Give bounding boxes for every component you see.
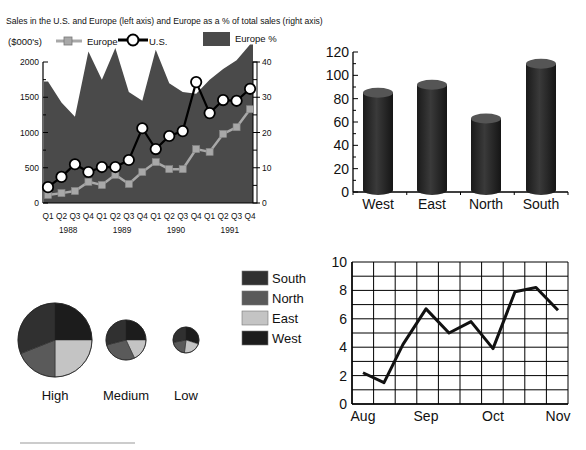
region-pie-charts: HighMediumLowSouthNorthEastWest xyxy=(18,271,306,403)
line-tick-label: 2 xyxy=(339,368,347,384)
quarter-label: Q2 xyxy=(164,211,175,221)
pie-slice-west xyxy=(55,303,92,340)
us-point xyxy=(110,162,120,172)
bar-category-label: North xyxy=(469,196,503,212)
month-label: Sep xyxy=(414,408,439,424)
sales-units-label: ($000's) xyxy=(8,36,42,47)
legend-label: West xyxy=(272,331,302,346)
pie-label: Low xyxy=(174,388,198,403)
legend-east: East xyxy=(242,311,298,326)
quarter-label: Q1 xyxy=(150,211,161,221)
pie-slice-south xyxy=(173,327,186,342)
bar-category-label: East xyxy=(418,196,446,212)
right-tick-label: 10 xyxy=(262,163,272,173)
year-label: 1989 xyxy=(113,225,132,235)
bar-tick-label: 80 xyxy=(333,91,349,107)
pie-label: High xyxy=(42,388,69,403)
quarter-label: Q4 xyxy=(83,211,94,221)
europe-point xyxy=(179,166,186,173)
bar-north xyxy=(471,114,501,196)
quarter-label: Q3 xyxy=(69,211,80,221)
pie-low xyxy=(173,327,199,353)
quarter-label: Q4 xyxy=(245,211,256,221)
right-tick-label: 40 xyxy=(262,57,272,67)
sales-chart: Sales in the U.S. and Europe (left axis)… xyxy=(6,16,323,235)
legend-europe-label: Europe xyxy=(87,36,118,47)
left-tick-label: 0 xyxy=(34,198,39,208)
us-point xyxy=(218,95,228,105)
quarter-label: Q2 xyxy=(218,211,229,221)
quarter-label: Q4 xyxy=(137,211,148,221)
europe-point xyxy=(139,168,146,175)
month-label: Aug xyxy=(351,408,376,424)
us-point xyxy=(124,155,134,165)
month-label: Oct xyxy=(482,408,504,424)
circle-marker-icon xyxy=(128,35,139,46)
bar-tick-label: 100 xyxy=(326,67,350,83)
left-tick-label: 1500 xyxy=(20,92,39,102)
europe-point xyxy=(125,180,132,187)
quarter-label: Q3 xyxy=(231,211,242,221)
region-bar-chart: 020406080100120WestEastNorthSouth xyxy=(326,44,568,212)
quarter-label: Q1 xyxy=(96,211,107,221)
europe-point xyxy=(166,166,173,173)
us-point xyxy=(70,159,80,169)
area-swatch-icon xyxy=(203,32,230,46)
sales-chart-title: Sales in the U.S. and Europe (left axis)… xyxy=(6,16,323,26)
us-point xyxy=(231,96,241,106)
legend-swatch-icon xyxy=(242,311,268,325)
quarter-label: Q3 xyxy=(177,211,188,221)
europe-point xyxy=(85,178,92,185)
pie-medium xyxy=(106,320,146,360)
line-tick-label: 8 xyxy=(339,282,347,298)
legend-label: East xyxy=(272,311,298,326)
europe-point xyxy=(206,148,213,155)
bar-tick-label: 40 xyxy=(333,137,349,153)
pie-label: Medium xyxy=(103,388,149,403)
bar-east xyxy=(417,80,447,195)
quarter-label: Q2 xyxy=(110,211,121,221)
europe-point xyxy=(58,190,65,197)
line-tick-label: 4 xyxy=(339,339,347,355)
us-point xyxy=(245,84,255,94)
europe-point xyxy=(193,146,200,153)
year-label: 1988 xyxy=(59,225,78,235)
legend-swatch-icon xyxy=(242,271,268,285)
quarter-label: Q3 xyxy=(123,211,134,221)
month-label: Nov xyxy=(546,408,571,424)
legend-europe: Europe xyxy=(56,36,118,47)
bar-tick-label: 0 xyxy=(341,184,349,200)
bar-category-label: South xyxy=(523,196,560,212)
sales-plot-area: 0500100015002000010203040Q1Q2Q3Q4Q1Q2Q3Q… xyxy=(20,44,272,235)
quarter-label: Q2 xyxy=(56,211,67,221)
bar-tick-label: 20 xyxy=(333,161,349,177)
pie-high xyxy=(18,303,92,377)
legend-us: U.S. xyxy=(118,35,167,48)
us-point xyxy=(191,77,201,87)
quarter-label: Q1 xyxy=(42,211,53,221)
legend-label: South xyxy=(272,271,306,286)
left-tick-label: 1000 xyxy=(20,128,39,138)
us-point xyxy=(151,144,161,154)
us-point xyxy=(178,126,188,136)
square-marker-icon xyxy=(64,37,72,45)
bar-tick-label: 60 xyxy=(333,114,349,130)
us-point xyxy=(56,172,66,182)
legend-swatch-icon xyxy=(242,331,268,345)
legend-south: South xyxy=(242,271,306,286)
left-tick-label: 500 xyxy=(25,163,39,173)
bar-category-label: West xyxy=(362,196,394,212)
legend-us-label: U.S. xyxy=(149,36,167,47)
legend-west: West xyxy=(242,331,302,346)
us-point xyxy=(97,162,107,172)
legend-swatch-icon xyxy=(242,291,268,305)
us-point xyxy=(83,167,93,177)
us-point xyxy=(204,108,214,118)
charts-canvas: Sales in the U.S. and Europe (left axis)… xyxy=(0,0,586,450)
europe-pct-area xyxy=(44,44,253,203)
line-tick-label: 10 xyxy=(331,254,347,270)
left-tick-label: 2000 xyxy=(20,57,39,67)
monthly-line-chart: 0246810AugSepOctNov xyxy=(331,254,570,424)
line-tick-label: 6 xyxy=(339,311,347,327)
pie-slice-east xyxy=(55,340,92,377)
